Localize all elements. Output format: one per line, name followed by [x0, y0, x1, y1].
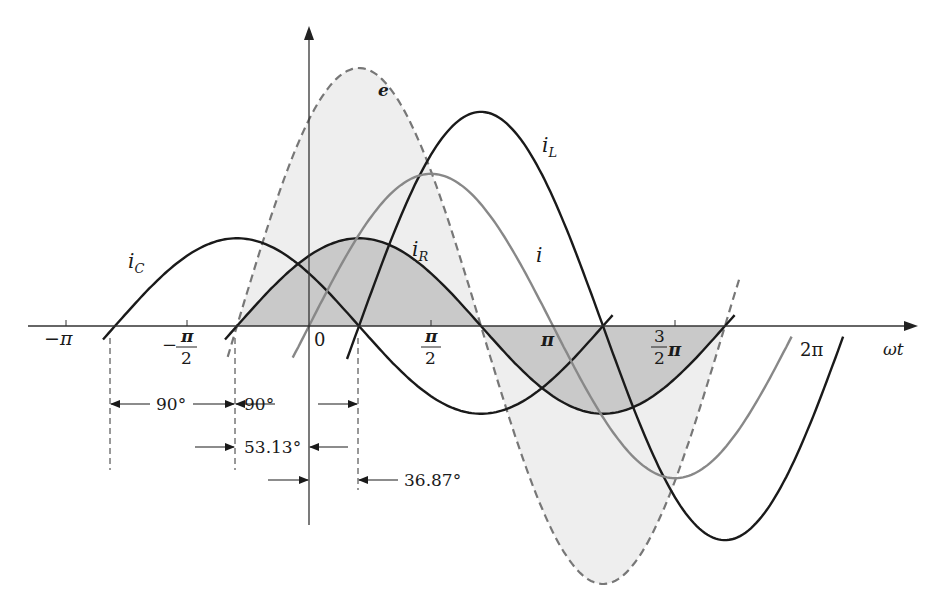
dim-90-left: 90° — [156, 394, 186, 414]
svg-text:3: 3 — [654, 326, 665, 346]
label-iL: iL — [542, 133, 557, 160]
dim-90-right: 90° — [244, 394, 274, 414]
phase-diagram: e iC iR iL i ωt −π − π 2 0 π 2 π 3 2 π 2… — [0, 0, 927, 601]
svg-text:2: 2 — [425, 348, 436, 368]
x-axis-arrow-icon — [904, 321, 918, 331]
label-omega-t: ωt — [883, 339, 904, 359]
svg-text:2: 2 — [654, 348, 665, 368]
svg-text:π: π — [424, 326, 438, 346]
tick-pi: π — [540, 329, 555, 350]
tick-half-pi: π 2 — [421, 326, 441, 368]
svg-text:π: π — [180, 326, 194, 346]
tick-neg-pi: −π — [44, 327, 73, 349]
dim-36-87: 36.87° — [404, 470, 461, 490]
tick-zero: 0 — [314, 329, 325, 350]
dim-53-13: 53.13° — [244, 437, 301, 457]
label-i: i — [536, 243, 542, 267]
label-e: e — [378, 80, 389, 100]
svg-text:2: 2 — [181, 348, 192, 368]
svg-text:−: − — [162, 334, 177, 355]
tick-neg-half-pi: − π 2 — [162, 326, 197, 368]
dimension-guides — [110, 338, 358, 490]
tick-two-pi: 2π — [800, 339, 823, 360]
svg-text:π: π — [667, 339, 682, 360]
y-axis-arrow-icon — [304, 26, 314, 40]
label-iC: iC — [128, 249, 144, 276]
